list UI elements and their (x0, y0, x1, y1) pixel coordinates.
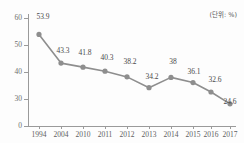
data-point-1994 (36, 32, 41, 37)
point-label-2013: 34.2 (137, 73, 167, 81)
data-point-2015 (190, 80, 195, 85)
point-label-2016: 32.6 (200, 76, 230, 84)
point-label-1994: 53.9 (28, 13, 58, 21)
data-point-2010 (80, 65, 85, 70)
data-point-2016 (208, 89, 213, 94)
data-point-2004 (58, 60, 63, 65)
data-point-2012 (124, 74, 129, 79)
point-label-2015: 36.1 (179, 68, 209, 76)
point-label-2012: 38.2 (115, 58, 145, 66)
line-chart: (단위: %) 60 50 40 30 0 1994 2004 2010 201… (0, 0, 244, 143)
point-label-2017: 24.6 (215, 98, 244, 106)
point-label-2014: 38 (158, 58, 188, 66)
data-point-2013 (146, 85, 151, 90)
data-point-2011 (102, 69, 107, 74)
data-point-2014 (168, 75, 173, 80)
